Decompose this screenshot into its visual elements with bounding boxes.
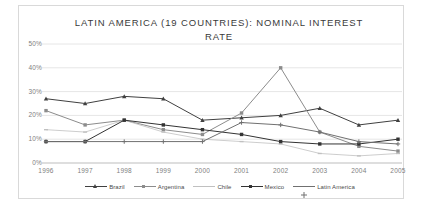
x-axis-tick-label: 2004 [342, 167, 376, 174]
x-axis-tick-label: 2003 [303, 167, 337, 174]
y-axis-tick-label: 0% [16, 159, 42, 166]
legend-label: Chile [217, 184, 231, 190]
legend-label: Argentina [158, 184, 185, 190]
legend-label: Latin America [317, 184, 355, 190]
legend-label: Brazil [109, 184, 125, 190]
x-axis-tick-label: 1997 [68, 167, 102, 174]
legend-marker-icon [241, 183, 263, 190]
chart-legend: BrazilArgentinaChileMexicoLatin America [60, 183, 380, 190]
legend-marker-icon [293, 183, 315, 190]
legend-label: Mexico [265, 184, 285, 190]
legend-item[interactable]: Mexico [241, 183, 285, 190]
chart-title: LATIN AMERICA (19 COUNTRIES): NOMINAL IN… [59, 16, 379, 44]
x-axis-tick-label: 2000 [185, 167, 219, 174]
x-axis-tick-label: 2005 [381, 167, 415, 174]
legend-marker-icon [134, 183, 156, 190]
legend-item[interactable]: Brazil [85, 183, 125, 190]
legend-item[interactable]: Chile [193, 183, 231, 190]
y-axis-tick-label: 50% [16, 40, 42, 47]
x-axis-tick-label: 2002 [264, 167, 298, 174]
y-axis-tick-label: 20% [16, 111, 42, 118]
legend-marker-icon [85, 183, 107, 190]
x-axis-tick-label: 1996 [29, 167, 63, 174]
legend-item[interactable]: Argentina [134, 183, 185, 190]
y-axis-tick-label: 10% [16, 135, 42, 142]
x-axis-tick-label: 2001 [225, 167, 259, 174]
legend-item[interactable]: Latin America [293, 183, 355, 190]
y-axis-tick-label: 30% [16, 88, 42, 95]
x-axis-tick-label: 1998 [107, 167, 141, 174]
legend-marker-icon [193, 183, 215, 190]
y-axis-tick-label: 40% [16, 64, 42, 71]
x-axis-tick-label: 1999 [146, 167, 180, 174]
